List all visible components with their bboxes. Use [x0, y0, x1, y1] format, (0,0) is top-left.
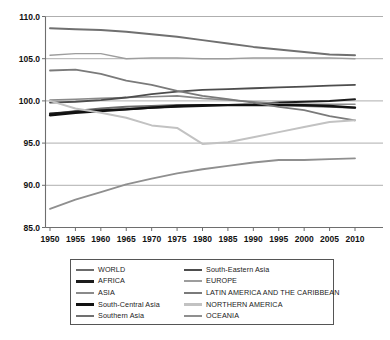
legend-entry: South-Central Asia	[76, 301, 184, 309]
y-tick-label: 90.0	[23, 180, 40, 190]
line-chart: 85.090.095.0100.0105.0110.0 195019551960…	[0, 0, 390, 250]
legend-entry: South-Eastern Asia	[184, 266, 340, 274]
legend-entry: EUROPE	[184, 277, 340, 285]
legend-label: ASIA	[98, 289, 115, 297]
legend-entry: NORTHERN AMERICA	[184, 301, 340, 309]
legend-color-swatch	[76, 280, 94, 283]
y-tick-label: 95.0	[23, 138, 40, 148]
chart-screenshot: 85.090.095.0100.0105.0110.0 195019551960…	[0, 0, 390, 340]
y-tick-label: 85.0	[23, 223, 40, 233]
y-tick-label: 100.0	[19, 96, 41, 106]
x-tick-label: 2005	[320, 234, 339, 244]
legend-entry: Southern Asia	[76, 312, 184, 320]
x-tick-label: 1965	[117, 234, 136, 244]
y-tick-label: 105.0	[19, 54, 41, 64]
legend-entry: AFRICA	[76, 277, 184, 285]
series-line-southern-asia	[50, 28, 355, 55]
legend-color-swatch	[184, 269, 202, 271]
x-tick-label: 1985	[218, 234, 237, 244]
legend-entry: ASIA	[76, 289, 184, 297]
legend-color-swatch	[184, 292, 202, 295]
series-line-south-eastern-asia	[50, 85, 355, 103]
x-tick-label: 1955	[66, 234, 85, 244]
y-tick-label: 110.0	[19, 12, 40, 22]
legend-color-swatch	[76, 315, 94, 318]
legend-color-swatch	[76, 303, 94, 306]
legend-color-swatch	[76, 292, 94, 294]
chart-legend: WORLDSouth-Eastern AsiaAFRICAEUROPEASIAL…	[70, 259, 334, 325]
x-tick-label: 1970	[142, 234, 161, 244]
legend-color-swatch	[76, 269, 94, 272]
series-line-northern-america	[50, 101, 355, 144]
x-tick-label: 2010	[346, 234, 365, 244]
legend-label: Southern Asia	[98, 312, 144, 320]
series-line-oceania	[50, 158, 355, 209]
legend-label: AFRICA	[98, 277, 125, 285]
x-tick-label: 1990	[244, 234, 263, 244]
legend-label: OCEANIA	[206, 312, 239, 320]
legend-entry: OCEANIA	[184, 312, 340, 320]
legend-label: NORTHERN AMERICA	[206, 301, 283, 309]
data-series-group	[50, 28, 355, 209]
legend-label: LATIN AMERICA AND THE CARIBBEAN	[206, 289, 339, 297]
x-tick-label: 1980	[193, 234, 212, 244]
legend-color-swatch	[184, 303, 202, 305]
legend-label: South-Central Asia	[98, 301, 160, 309]
series-line-europe	[50, 54, 355, 59]
x-axis-tick-labels: 1950195519601965197019751980198519901995…	[41, 234, 365, 244]
x-tick-label: 1960	[91, 234, 110, 244]
legend-grid: WORLDSouth-Eastern AsiaAFRICAEUROPEASIAL…	[76, 264, 328, 322]
x-tick-label: 1995	[269, 234, 288, 244]
plot-canvas: 85.090.095.0100.0105.0110.0 195019551960…	[0, 0, 390, 250]
y-axis-tick-labels: 85.090.095.0100.0105.0110.0	[19, 12, 41, 233]
legend-label: South-Eastern Asia	[206, 266, 269, 274]
x-tick-label: 1975	[168, 234, 187, 244]
legend-label: EUROPE	[206, 277, 237, 285]
legend-color-swatch	[184, 315, 202, 317]
legend-label: WORLD	[98, 266, 125, 274]
x-tick-label: 1950	[41, 234, 60, 244]
x-tick-label: 2000	[295, 234, 314, 244]
legend-color-swatch	[184, 280, 202, 282]
legend-entry: LATIN AMERICA AND THE CARIBBEAN	[184, 289, 340, 297]
legend-entry: WORLD	[76, 266, 184, 274]
